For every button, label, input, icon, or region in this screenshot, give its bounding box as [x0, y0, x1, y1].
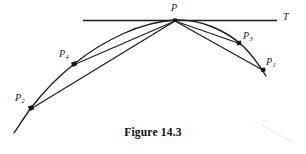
point-marker-p [173, 18, 177, 21]
label-point-p4: P4 [59, 49, 68, 59]
label-point-p1-sub: 1 [273, 61, 276, 68]
label-point-p3: P3 [243, 31, 252, 41]
label-tangent-t-base: T [283, 11, 289, 22]
secant-line-p4 [75, 21, 176, 65]
label-point-p2: P2 [15, 93, 24, 103]
curve-path [14, 20, 266, 133]
figure-container: P T P1 P2 P3 P4 Figure 14.3 [0, 0, 306, 154]
label-point-p3-base: P [243, 30, 249, 41]
label-point-p: P [171, 3, 177, 13]
label-point-p1-base: P [266, 56, 272, 67]
figure-caption: Figure 14.3 [0, 126, 306, 138]
label-point-p3-sub: 3 [250, 35, 253, 42]
secant-line-p2 [32, 21, 176, 109]
label-point-p-base: P [171, 2, 177, 13]
label-point-p4-sub: 4 [66, 53, 69, 60]
secant-line-p1 [175, 21, 264, 71]
label-point-p1: P1 [266, 57, 275, 67]
label-point-p2-sub: 2 [22, 97, 25, 104]
label-tangent-t: T [283, 12, 289, 22]
label-point-p4-base: P [59, 48, 65, 59]
label-point-p2-base: P [15, 92, 21, 103]
